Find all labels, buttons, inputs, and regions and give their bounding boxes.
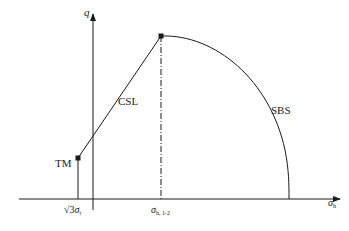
peak-marker <box>159 34 164 39</box>
yield-surface-diagram: q CSL TM SBS √3σt σh, 1-2 σh <box>0 0 349 231</box>
tm-marker <box>76 156 81 161</box>
sbs-label: SBS <box>271 104 291 116</box>
svg-text:σh, 1-2: σh, 1-2 <box>151 204 170 216</box>
sbs-curve <box>161 36 289 199</box>
csl-label: CSL <box>118 95 138 107</box>
left-tick-label: √3σt <box>64 204 81 216</box>
y-axis-label: q <box>84 6 90 18</box>
tm-label: TM <box>55 157 72 169</box>
mid-tick-label: σh, 1-2 <box>151 204 170 216</box>
svg-text:√3σt: √3σt <box>64 204 81 216</box>
